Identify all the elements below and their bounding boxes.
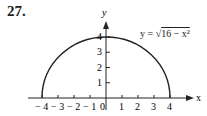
x-tick-label: − 4 (35, 101, 48, 112)
semicircle-plot: − 4− 3− 2− 101234 1234 x y (0, 0, 207, 116)
y-axis-label: y (101, 7, 107, 18)
x-axis-label: x (196, 92, 201, 103)
x-tick-label: − 3 (51, 101, 64, 112)
x-tick-label: − 1 (83, 101, 96, 112)
x-tick-label: 1 (119, 101, 124, 112)
x-tick-label: − 2 (67, 101, 80, 112)
y-tick-label: 1 (97, 77, 102, 88)
equation-label: y = √16 − x² (140, 28, 190, 39)
y-tick-label: 3 (97, 46, 102, 57)
y-ticks: 1234 (97, 31, 110, 88)
y-tick-label: 2 (97, 62, 102, 73)
equation-radicand: 16 − x² (161, 28, 190, 39)
x-axis-arrow-icon (186, 95, 194, 101)
equation-lhs: y = (140, 28, 156, 39)
x-tick-label: 3 (151, 101, 156, 112)
x-tick-label: 2 (135, 101, 140, 112)
x-tick-label: 4 (167, 101, 172, 112)
y-axis-arrow-icon (103, 21, 109, 29)
y-tick-label: 4 (97, 31, 102, 42)
x-tick-label: 0 (100, 101, 105, 112)
